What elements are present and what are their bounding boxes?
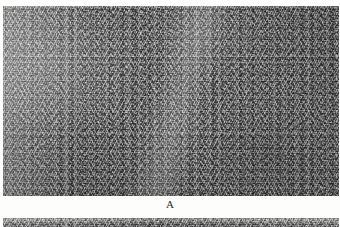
- panel-a-label: A: [0, 198, 340, 211]
- panel-a-micrograph: [3, 6, 339, 196]
- panel-a-scan-grain: [3, 6, 339, 196]
- panel-b-micrograph-sliver: [3, 218, 339, 227]
- panel-b-scan-grain: [3, 218, 339, 227]
- figure-page: A: [0, 0, 340, 227]
